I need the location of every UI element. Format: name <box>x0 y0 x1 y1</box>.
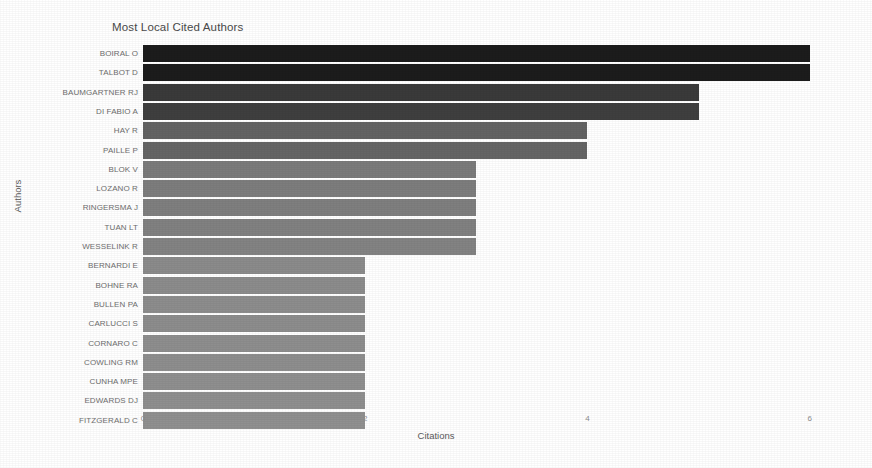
y-axis-tick-label: HAY R <box>8 126 138 135</box>
bar <box>143 199 476 216</box>
x-axis-tick-label: 2 <box>363 414 367 423</box>
bar-row <box>143 180 843 197</box>
y-axis-tick-label: COWLING RM <box>8 358 138 367</box>
bar <box>143 219 476 236</box>
y-axis-tick-label: CUNHA MPE <box>8 377 138 386</box>
bar <box>143 64 810 81</box>
bar-row <box>143 354 843 371</box>
bar-row <box>143 122 843 139</box>
y-axis-tick-label: BULLEN PA <box>8 300 138 309</box>
bar <box>143 122 587 139</box>
bar-row <box>143 45 843 62</box>
bar <box>143 354 365 371</box>
bar <box>143 84 699 101</box>
y-axis-tick-label: RINGERSMA J <box>8 203 138 212</box>
x-axis-tick-label: 0 <box>141 414 145 423</box>
plot-area <box>143 45 843 413</box>
bar-row <box>143 84 843 101</box>
y-axis-tick-label: CORNARO C <box>8 339 138 348</box>
bar-row <box>143 219 843 236</box>
bar-row <box>143 277 843 294</box>
bar <box>143 315 365 332</box>
bar <box>143 373 365 390</box>
bar <box>143 392 365 409</box>
bar <box>143 335 365 352</box>
y-axis-tick-label: BAUMGARTNER RJ <box>8 88 138 97</box>
bar <box>143 103 699 120</box>
y-axis-tick-label: PAILLE P <box>8 146 138 155</box>
y-axis-tick-label: EDWARDS DJ <box>8 396 138 405</box>
y-axis-tick-label: BLOK V <box>8 165 138 174</box>
bar <box>143 238 476 255</box>
bar-row <box>143 161 843 178</box>
chart-title: Most Local Cited Authors <box>112 21 243 33</box>
bar-row <box>143 335 843 352</box>
chart-screenshot: Most Local Cited Authors Authors BOIRAL … <box>0 0 872 468</box>
y-axis-tick-label: TUAN LT <box>8 223 138 232</box>
bar <box>143 296 365 313</box>
x-axis-tick-label: 4 <box>585 414 589 423</box>
x-axis-tick-label: 6 <box>807 414 811 423</box>
bar-row <box>143 103 843 120</box>
bar <box>143 142 587 159</box>
bar-row <box>143 257 843 274</box>
bar <box>143 45 810 62</box>
bar-row <box>143 392 843 409</box>
bar-row <box>143 64 843 81</box>
bar-row <box>143 199 843 216</box>
bar <box>143 161 476 178</box>
bar-row <box>143 315 843 332</box>
bar <box>143 277 365 294</box>
y-axis-tick-label: CARLUCCI S <box>8 319 138 328</box>
y-axis-tick-label: BOHNE RA <box>8 281 138 290</box>
y-axis-tick-label: DI FABIO A <box>8 107 138 116</box>
y-axis-tick-label: LOZANO R <box>8 184 138 193</box>
y-axis-tick-label: TALBOT D <box>8 68 138 77</box>
y-axis-tick-labels: BOIRAL OTALBOT DBAUMGARTNER RJDI FABIO A… <box>5 45 138 413</box>
bar <box>143 257 365 274</box>
y-axis-tick-label: BERNARDI E <box>8 261 138 270</box>
x-axis-label: Citations <box>0 430 872 441</box>
bar-row <box>143 142 843 159</box>
bar <box>143 180 476 197</box>
y-axis-tick-label: WESSELINK R <box>8 242 138 251</box>
y-axis-tick-label: BOIRAL O <box>8 49 138 58</box>
bar-row <box>143 373 843 390</box>
bar-row <box>143 296 843 313</box>
bar-row <box>143 238 843 255</box>
